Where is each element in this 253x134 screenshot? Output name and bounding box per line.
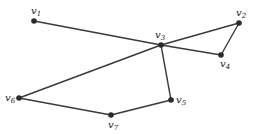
vertices-group	[16, 18, 242, 118]
edge-v3-v6	[19, 45, 161, 98]
vertex-v2	[236, 20, 242, 26]
vertex-v5	[168, 97, 174, 103]
edge-v1-v3	[34, 21, 161, 45]
labels-group: v1v2v3v4v5v6v7	[5, 5, 247, 132]
vertex-v1	[31, 18, 37, 24]
vertex-label-v3: v3	[155, 29, 166, 42]
graph-diagram: v1v2v3v4v5v6v7	[0, 0, 253, 134]
vertex-label-v7: v7	[108, 119, 119, 132]
vertex-v7	[108, 112, 114, 118]
edge-v3-v5	[161, 45, 171, 100]
graph-canvas: v1v2v3v4v5v6v7	[0, 0, 253, 134]
vertex-label-v4: v4	[220, 58, 230, 71]
vertex-label-v1: v1	[31, 5, 41, 18]
edge-v7-v6	[19, 98, 111, 115]
edge-v5-v7	[111, 100, 171, 115]
vertex-v6	[16, 95, 22, 101]
vertex-label-v6: v6	[5, 92, 16, 105]
vertex-v3	[158, 42, 164, 48]
edges-group	[19, 21, 239, 115]
vertex-label-v2: v2	[236, 7, 247, 20]
edge-v2-v3	[161, 23, 239, 45]
vertex-v4	[218, 52, 224, 58]
vertex-label-v5: v5	[176, 94, 187, 107]
edge-v3-v4	[161, 45, 221, 55]
